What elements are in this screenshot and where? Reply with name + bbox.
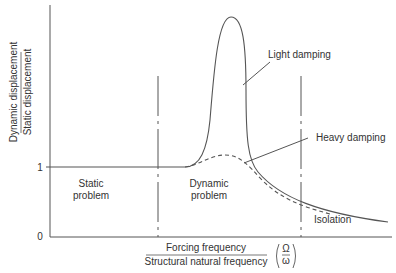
omega-lower-symbol: ω [282, 255, 290, 266]
static-region-label-1: Static [78, 178, 103, 189]
x-label-numerator: Forcing frequency [166, 242, 246, 253]
y-tick-label-0: 0 [37, 231, 43, 242]
heavy-damping-leader [244, 138, 308, 163]
isolation-region-label: Isolation [314, 214, 351, 225]
light-damping-label: Light damping [268, 49, 331, 60]
static-region-label-2: problem [73, 190, 109, 201]
light-damping-leader [243, 62, 270, 85]
x-label-denominator: Structural natural frequency [145, 256, 268, 267]
omega-upper-symbol: Ω [282, 243, 290, 254]
heavy-damping-label: Heavy damping [316, 132, 385, 143]
left-paren-icon [277, 244, 280, 268]
y-label-numerator: Dynamic displacement [8, 41, 19, 142]
y-tick-label-1: 1 [37, 162, 43, 173]
right-paren-icon [293, 244, 296, 268]
dynamic-region-label-2: problem [191, 190, 227, 201]
response-diagram: Dynamic displacement Static displacement… [0, 0, 396, 273]
dynamic-region-label-1: Dynamic [190, 178, 229, 189]
y-label-denominator: Static displacement [22, 48, 33, 135]
